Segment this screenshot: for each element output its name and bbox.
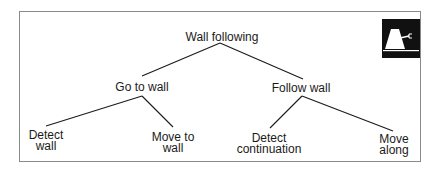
node-wall-following: Wall following <box>186 32 259 43</box>
node-label-line2: wall <box>152 143 195 154</box>
robot-icon <box>382 19 420 58</box>
node-follow-wall: Follow wall <box>272 83 331 94</box>
edge-follow-wall-move-along <box>302 96 393 131</box>
edge-root-follow-wall <box>220 43 303 79</box>
edge-follow-wall-detect-continuation <box>270 96 302 128</box>
node-label: Follow wall <box>272 81 331 95</box>
node-detect-wall: Detect wall <box>29 130 64 152</box>
node-move-along: Move along <box>379 134 408 156</box>
node-label-line2: continuation <box>237 144 302 155</box>
node-label-line2: along <box>379 145 408 156</box>
node-label: Go to wall <box>115 80 168 94</box>
edge-root-go-to-wall <box>142 43 220 76</box>
tree-connectors <box>0 0 439 173</box>
edge-go-to-wall-move-to-wall <box>142 96 173 127</box>
node-go-to-wall: Go to wall <box>115 82 168 93</box>
node-detect-continuation: Detect continuation <box>237 133 302 155</box>
node-label: Wall following <box>186 30 259 44</box>
edge-go-to-wall-detect-wall <box>46 96 142 126</box>
node-move-to-wall: Move to wall <box>152 132 195 154</box>
node-label-line2: wall <box>29 141 64 152</box>
